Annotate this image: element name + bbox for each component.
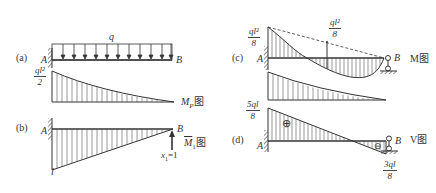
mp-diagram-label: MP图 [181,97,204,111]
m-diagram-label: M图 [410,54,429,64]
panel-a-beam [48,44,173,68]
point-b-label: B [176,55,182,65]
distributed-load-icon [52,44,172,60]
left-moment-fraction: ql² 8 [248,27,260,48]
point-a-label: A [41,55,47,65]
negative-sign-icon: ⊖ [374,141,382,151]
moment-value-fraction: ql² 2 [34,66,46,87]
point-b-label: B [394,53,400,63]
panel-b-tag: (b) [16,123,28,133]
panel-a-tag: (a) [16,53,27,63]
panel-a-moment-diagram [52,71,174,102]
point-b-label: B [395,136,401,146]
m1-diagram-label: M1图 [184,138,206,152]
panel-d-tag: (d) [232,135,244,145]
point-a-label: A [257,54,263,64]
fixed-support-icon [264,130,268,152]
point-a-label: A [257,141,263,151]
point-b-label: B [177,124,183,134]
right-shear-fraction: 3ql 8 [383,160,397,181]
left-shear-fraction: 5ql 8 [246,100,260,121]
fixed-support-icon [264,46,268,70]
fixed-support-icon [48,48,52,68]
panel-b-beam [48,118,175,170]
panel-c-tag: (c) [232,53,243,63]
unit-force-label: x1=1 [161,150,178,164]
v-diagram-label: V图 [410,135,427,145]
point-a-label: A [41,126,47,136]
load-q-label: q [109,32,114,42]
positive-sign-icon: ⊕ [282,118,291,128]
mid-moment-fraction: ql² 8 [329,18,341,39]
moment-value-l: l [51,167,54,177]
fixed-support-icon [48,118,52,140]
diagram-canvas [0,0,436,193]
